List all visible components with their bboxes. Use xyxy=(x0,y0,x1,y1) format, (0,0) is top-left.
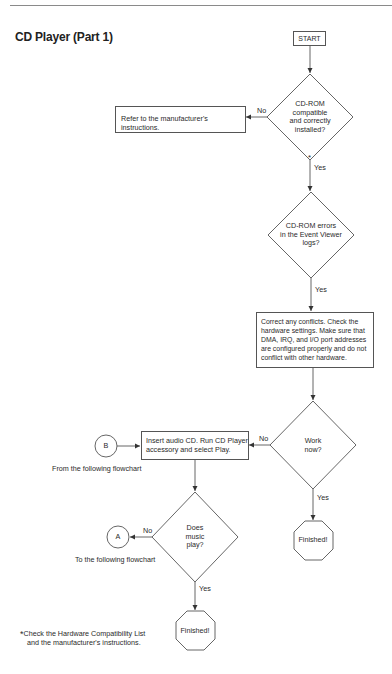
footnote: *Check the Hardware Compatibility List a… xyxy=(20,630,145,648)
decision-music-yes-label: Yes xyxy=(199,584,211,593)
connector-b-caption: From the following flowchart xyxy=(52,464,141,473)
decision-music-text: Does music play? xyxy=(186,524,205,550)
decision-work-no-label: No xyxy=(259,434,268,443)
start-label: START xyxy=(298,35,320,42)
decision-errors-text: CD-ROM errors in the Event Viewer logs? xyxy=(280,222,342,248)
correct-conflicts-box: Correct any conflicts. Check the hardwar… xyxy=(256,312,374,368)
start-terminal: START xyxy=(293,31,326,46)
connector-a-caption: To the following flowchart xyxy=(75,555,155,564)
decision-music-no-label: No xyxy=(143,526,152,535)
insert-audio-cd-box: Insert audio CD. Run CD Player accessory… xyxy=(141,431,249,460)
decision-errors-yes-label: Yes xyxy=(315,285,327,294)
decision-work-yes-label: Yes xyxy=(317,493,329,502)
decision-compatible-text: CD-ROM compatible and correctly installe… xyxy=(289,100,330,134)
connector-b-label: B xyxy=(104,442,109,451)
finished-label-2: Finished! xyxy=(180,627,209,636)
decision-work-text: Work now? xyxy=(304,437,321,454)
connector-a-label: A xyxy=(116,533,121,542)
finished-label-1: Finished! xyxy=(298,536,327,545)
refer-manufacturer-box: Refer to the manufacturer's instructions… xyxy=(115,106,246,133)
decision-compatible-no-label: No xyxy=(257,106,266,115)
decision-compatible-yes-label: Yes xyxy=(314,163,326,172)
footnote-marker-asterisk: * xyxy=(308,153,311,162)
